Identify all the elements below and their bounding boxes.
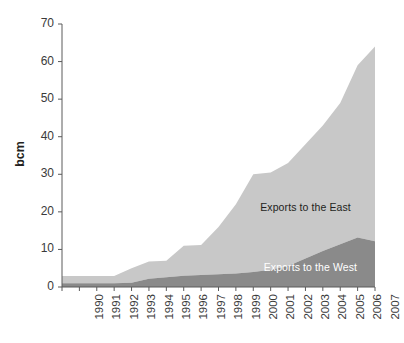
x-axis-tick-label: 1999: [249, 294, 261, 320]
y-axis-tick-label: 10: [16, 241, 54, 255]
x-axis-tick-label: 1991: [110, 294, 122, 320]
x-axis-tick-label: 1990: [93, 294, 105, 320]
y-axis-tick-label: 60: [16, 54, 54, 68]
x-axis-tick-label: 2001: [284, 294, 296, 320]
plot-area: [0, 0, 404, 343]
x-axis-tick-label: 2006: [371, 294, 383, 320]
annotation-exports-to-the-west: Exports to the West: [264, 261, 357, 273]
y-axis-tick-label: 40: [16, 129, 54, 143]
x-axis-tick-label: 1993: [145, 294, 157, 320]
x-axis-tick-label: 2005: [353, 294, 365, 320]
annotation-exports-to-the-east: Exports to the East: [260, 201, 351, 213]
x-axis-tick-label: 1992: [127, 294, 139, 320]
y-axis-tick-label: 20: [16, 204, 54, 218]
area-chart: bcm 010203040506070 19901991199219931994…: [0, 0, 404, 343]
x-axis-tick-label: 2003: [319, 294, 331, 320]
x-axis-tick-label: 2007: [388, 294, 400, 320]
x-axis-tick-label: 1995: [180, 294, 192, 320]
x-axis-tick-label: 1996: [197, 294, 209, 320]
y-axis-tick-label: 0: [16, 279, 54, 293]
y-axis-tick-label: 50: [16, 91, 54, 105]
area-series-exports-to-the-east: [62, 47, 375, 284]
y-axis-tick-label: 70: [16, 16, 54, 30]
y-axis-tick-label: 30: [16, 166, 54, 180]
x-axis-tick-label: 1998: [232, 294, 244, 320]
x-axis-tick-label: 1994: [162, 294, 174, 320]
x-axis-tick-label: 1997: [214, 294, 226, 320]
x-axis-tick-label: 2002: [301, 294, 313, 320]
x-axis-tick-label: 2000: [266, 294, 278, 320]
x-axis-tick-label: 2004: [336, 294, 348, 320]
